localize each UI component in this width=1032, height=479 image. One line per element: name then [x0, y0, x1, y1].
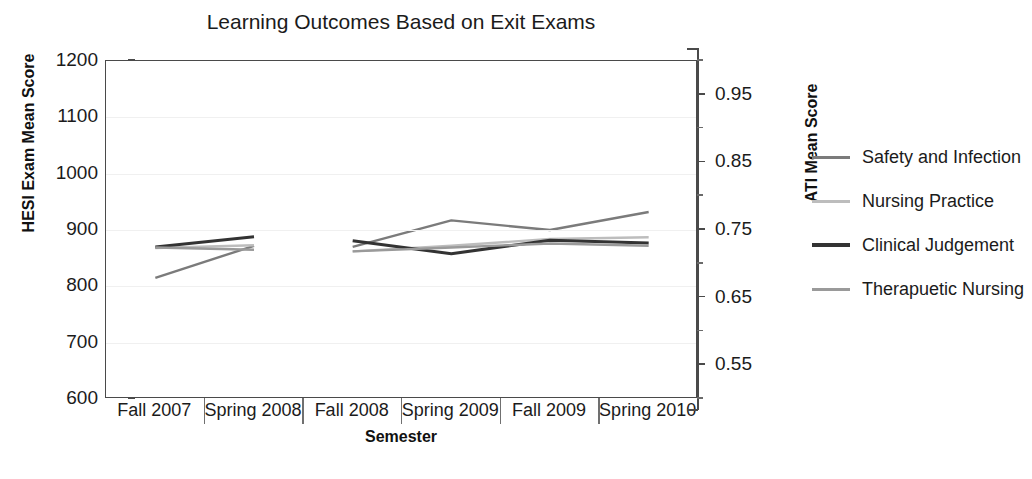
legend-swatch-icon [812, 156, 850, 159]
y-axis-right-tick [697, 228, 705, 230]
y-axis-right-cap [687, 409, 698, 411]
x-axis-tick-label: Spring 2009 [402, 400, 499, 421]
y-axis-right-minor-tick [697, 59, 703, 61]
y-axis-right-tick-label: 0.95 [715, 83, 752, 105]
legend-label: Clinical Judgement [862, 235, 1014, 256]
plot-area [105, 60, 697, 398]
y-axis-left-tick-label: 900 [66, 218, 98, 240]
x-axis-tick-label: Fall 2007 [117, 400, 191, 421]
x-axis: Fall 2007Spring 2008Fall 2008Spring 2009… [105, 398, 697, 428]
legend-swatch-icon [812, 288, 850, 291]
x-axis-separator [500, 398, 501, 424]
chart-figure: Learning Outcomes Based on Exit Exams 60… [0, 0, 1032, 479]
y-axis-right-tick [697, 161, 705, 163]
y-axis-right-minor-tick [697, 194, 703, 196]
y-axis-right-tick [697, 363, 705, 365]
y-axis-left-title: HESI Exam Mean Score [20, 28, 38, 258]
series-line [155, 246, 254, 278]
gridline [106, 286, 696, 287]
y-axis-left-tick-label: 600 [66, 387, 98, 409]
y-axis-left-tick-label: 700 [66, 331, 98, 353]
y-axis-right-cap [687, 48, 698, 50]
x-axis-separator [204, 398, 205, 424]
x-axis-title: Semester [105, 428, 697, 446]
y-axis-right-tick-label: 0.65 [715, 286, 752, 308]
legend-item[interactable]: Nursing Practice [812, 190, 994, 212]
y-axis-right-tick-label: 0.75 [715, 218, 752, 240]
y-axis-left-tick-label: 1200 [56, 49, 98, 71]
y-axis-left-tick-label: 1100 [57, 105, 98, 127]
legend-item[interactable]: Clinical Judgement [812, 234, 1014, 256]
legend-label: Nursing Practice [862, 191, 994, 212]
y-axis-right-minor-tick [697, 397, 703, 399]
gridline [106, 230, 696, 231]
legend-item[interactable]: Safety and Infection [812, 146, 1021, 168]
y-axis-left-tick-label: 1000 [56, 162, 98, 184]
gridline [106, 343, 696, 344]
gridline [106, 117, 696, 118]
y-axis-right-tick-label: 0.55 [715, 353, 752, 375]
y-axis-right-minor-tick [697, 127, 703, 129]
y-axis-right-tick [697, 296, 705, 298]
legend-swatch-icon [812, 243, 850, 247]
x-axis-separator [302, 398, 303, 424]
x-axis-tick-label: Fall 2009 [512, 400, 586, 421]
y-axis-left: 600700800900100011001200 [30, 60, 98, 398]
series-line [155, 247, 254, 249]
y-axis-right: 0.550.650.750.850.95 [697, 60, 767, 398]
legend-label: Safety and Infection [862, 147, 1021, 168]
legend-label: Therapuetic Nursing [862, 279, 1024, 300]
legend-item[interactable]: Therapuetic Nursing [812, 278, 1024, 300]
x-axis-tick-label: Spring 2008 [204, 400, 301, 421]
y-axis-right-title: ATI Mean Score [803, 28, 821, 258]
x-axis-separator [598, 398, 599, 424]
y-axis-right-minor-tick [697, 330, 703, 332]
x-axis-tick-label: Spring 2010 [599, 400, 696, 421]
legend-swatch-icon [812, 200, 850, 203]
y-axis-left-tick-label: 800 [66, 274, 98, 296]
y-axis-right-tick-label: 0.85 [715, 150, 752, 172]
y-axis-right-tick [697, 93, 705, 95]
gridline [106, 174, 696, 175]
chart-title: Learning Outcomes Based on Exit Exams [105, 10, 697, 34]
x-axis-separator [401, 398, 402, 424]
y-axis-right-minor-tick [697, 262, 703, 264]
x-axis-tick-label: Fall 2008 [315, 400, 389, 421]
